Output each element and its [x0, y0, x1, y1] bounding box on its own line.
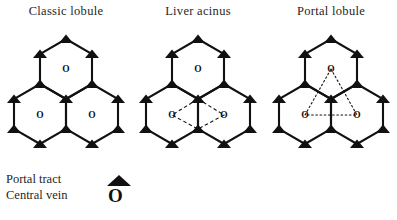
panel-title-classic-lobule: Classic lobule: [0, 4, 132, 19]
legend-item-portal-tract: Portal tract: [6, 172, 102, 186]
central-vein-label: O: [62, 64, 69, 74]
central-vein-label: O: [220, 110, 227, 120]
panel-canvas-classic-lobule: O O O: [0, 22, 132, 162]
legend-item-central-vein: Central vein: [6, 188, 102, 202]
central-vein-label: O: [353, 110, 360, 120]
panel-classic-lobule: Classic lobule: [0, 0, 132, 168]
portal-tract-markers: [7, 35, 125, 149]
panel-canvas-portal-lobule: O O O: [265, 22, 397, 162]
portal-tract-triangle: [191, 125, 205, 134]
figure-legend: Portal tract Central vein O: [6, 172, 146, 216]
portal-tract-triangle: [243, 125, 257, 134]
portal-tract-triangle: [139, 125, 153, 134]
portal-tract-triangle: [324, 125, 338, 134]
portal-tract-triangle: [376, 125, 390, 134]
liver-lobule-figure: Classic lobule: [0, 0, 397, 220]
portal-tract-triangle: [191, 35, 205, 44]
portal-tract-triangle: [350, 80, 364, 89]
portal-tract-markers: [272, 35, 390, 149]
portal-tract-triangle: [324, 35, 338, 44]
central-vein-label: O: [301, 110, 308, 120]
panel-canvas-liver-acinus: O O O: [132, 22, 264, 162]
central-vein-label: O: [194, 64, 201, 74]
portal-tract-triangle: [217, 80, 231, 89]
central-vein-symbol: O: [108, 186, 123, 205]
legend-symbols: O: [102, 172, 142, 212]
portal-tract-triangle: [59, 35, 73, 44]
panel-portal-lobule: Portal lobule: [265, 0, 397, 168]
portal-tract-triangle: [298, 80, 312, 89]
portal-tract-triangle: [165, 80, 179, 89]
portal-tract-triangle: [272, 125, 286, 134]
panel-title-liver-acinus: Liver acinus: [132, 4, 264, 19]
portal-tract-triangle: [85, 80, 99, 89]
central-vein-label: O: [88, 110, 95, 120]
central-vein-label: O: [36, 110, 43, 120]
central-vein-label: O: [327, 64, 334, 74]
panel-title-portal-lobule: Portal lobule: [265, 4, 397, 19]
portal-tract-triangle: [59, 125, 73, 134]
portal-tract-triangle: [7, 125, 21, 134]
portal-tract-triangle: [33, 80, 47, 89]
central-vein-label: O: [168, 110, 175, 120]
portal-tract-triangle: [111, 125, 125, 134]
panel-liver-acinus: Liver acinus: [132, 0, 264, 168]
portal-tract-markers: [139, 35, 257, 149]
